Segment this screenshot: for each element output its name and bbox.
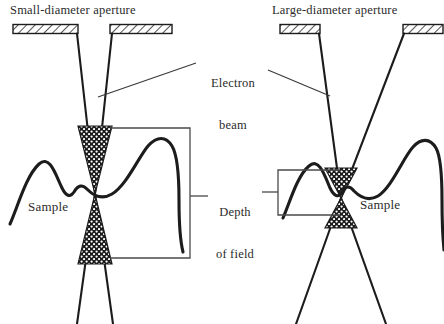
right-panel-title: Large-diameter aperture [272,3,397,17]
right-sample-curve [283,140,444,250]
electron-beam-annotation: Electron beam [200,48,266,160]
left-sample-label: Sample [28,200,68,215]
left-depth-bracket [110,128,208,258]
right-depth-of-field-zone [325,168,357,228]
electron-beam-line-1: Electron [200,76,266,90]
left-aperture-plate-a [13,25,78,34]
right-aperture-plate-a [280,25,320,34]
depth-of-field-line-2: of field [207,247,263,261]
depth-of-field-annotation: Depth of field [207,177,263,289]
diagram-canvas: Small-diameter aperture Large-diameter a… [0,0,444,324]
right-sample-label: Sample [360,198,400,213]
electron-beam-leader-left [98,63,196,97]
right-aperture-plate-b [403,25,443,34]
left-aperture-plate-b [110,25,172,34]
left-panel-title: Small-diameter aperture [10,3,136,17]
electron-beam-leader-right [268,70,330,96]
depth-of-field-line-1: Depth [207,205,263,219]
electron-beam-line-2: beam [200,118,266,132]
